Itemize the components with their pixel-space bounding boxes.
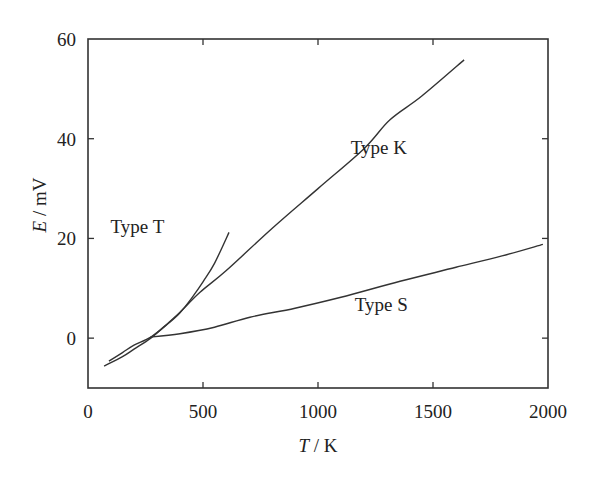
x-axis-label: T / K: [298, 435, 337, 456]
x-tick-label: 1500: [414, 401, 452, 422]
y-axis-label: E / mV: [29, 177, 50, 233]
x-axis-tick-labels: 0500100015002000: [83, 401, 567, 422]
y-tick-label: 20: [57, 228, 76, 249]
type-t-curve: [109, 232, 229, 361]
x-tick-label: 2000: [529, 401, 567, 422]
y-axis-unit: / mV: [29, 177, 50, 221]
type-k-label: Type K: [351, 137, 407, 158]
y-tick-label: 0: [67, 328, 77, 349]
thermocouple-emf-chart: 0500100015002000 0204060 Type TType KTyp…: [0, 0, 591, 481]
axis-ticks: [88, 39, 548, 388]
x-tick-label: 500: [189, 401, 218, 422]
x-tick-label: 1000: [299, 401, 337, 422]
plot-border: [88, 39, 548, 388]
x-axis-unit: / K: [309, 435, 338, 456]
curves: [104, 60, 543, 366]
x-tick-label: 0: [83, 401, 93, 422]
type-t-label: Type T: [111, 216, 165, 237]
type-s-label: Type S: [355, 294, 408, 315]
y-tick-label: 60: [57, 29, 76, 50]
y-tick-label: 40: [57, 129, 76, 150]
curve-labels: Type TType KType S: [111, 137, 408, 315]
y-axis-variable: E: [29, 220, 50, 233]
y-axis-tick-labels: 0204060: [57, 29, 76, 349]
type-s-curve: [150, 244, 543, 337]
plot-frame: [88, 39, 548, 388]
type-k-curve: [104, 60, 464, 366]
